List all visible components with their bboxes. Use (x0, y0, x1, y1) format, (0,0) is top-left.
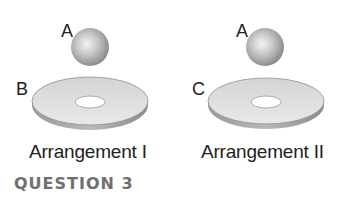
disk-label-b: B (16, 80, 28, 98)
caption-arrangement-2: Arrangement II (201, 142, 324, 161)
disk-b (32, 77, 148, 130)
diagram-canvas (0, 0, 355, 198)
disk-c (208, 78, 324, 129)
caption-arrangement-1: Arrangement I (29, 142, 147, 161)
arrangement-2 (208, 28, 324, 129)
sphere-a-2 (246, 28, 284, 66)
question-label: QUESTION 3 (14, 176, 134, 192)
sphere-label-1: A (61, 22, 73, 40)
sphere-a-1 (71, 28, 109, 66)
sphere-label-2: A (236, 22, 248, 40)
arrangement-1 (32, 28, 148, 130)
disk-label-c: C (192, 80, 205, 98)
